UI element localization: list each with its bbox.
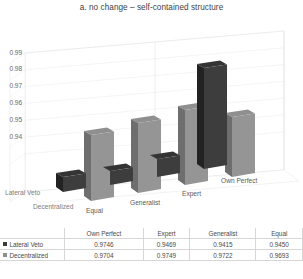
- depth-label-lateral-veto: Lateral Veto: [5, 189, 40, 196]
- legend-item-decentralized[interactable]: Decentralized: [0, 250, 65, 261]
- chart-title: a. no change – self-contained structure: [0, 3, 303, 12]
- y-tick-0: 0.99: [0, 49, 22, 56]
- bar-decentralized-own-perfect: [225, 110, 255, 178]
- cell-decentralized-generalist: 0.9722: [190, 250, 256, 261]
- category-label-equal: Equal: [86, 207, 103, 214]
- left-wall: [10, 53, 25, 202]
- y-tick-2: 0.97: [0, 82, 22, 89]
- table-row: Decentralized 0.9704 0.9749 0.9722 0.969…: [0, 250, 303, 261]
- bar-lateral-veto-own-perfect: [197, 61, 227, 170]
- cell-lateral-veto-equal: 0.9450: [256, 239, 303, 250]
- table-corner-cell: [0, 228, 65, 239]
- cell-decentralized-own-perfect: 0.9704: [65, 250, 144, 261]
- category-label-expert: Expert: [182, 190, 201, 197]
- cell-lateral-veto-expert: 0.9469: [143, 239, 190, 250]
- category-label-own-perfect: Own Perfect: [221, 177, 257, 184]
- legend-item-lateral-veto[interactable]: Lateral Veto: [0, 239, 65, 250]
- legend-label-decentralized: Decentralized: [10, 252, 48, 259]
- plot-area: [0, 18, 303, 226]
- legend-swatch-lateral-veto: [3, 242, 7, 246]
- depth-label-decentralized: Decentralized: [33, 203, 73, 210]
- y-tick-3: 0.96: [0, 99, 22, 106]
- cell-decentralized-equal: 0.9693: [256, 250, 303, 261]
- table-col-header-expert: Expert: [143, 228, 190, 239]
- table-col-header-generalist: Generalist: [190, 228, 256, 239]
- cell-decentralized-expert: 0.9749: [143, 250, 190, 261]
- y-tick-4: 0.95: [0, 116, 22, 123]
- cell-lateral-veto-own-perfect: 0.9746: [65, 239, 144, 250]
- cell-lateral-veto-generalist: 0.9415: [190, 239, 256, 250]
- bar-lateral-veto-equal: [56, 170, 86, 193]
- table-col-header-equal: Equal: [256, 228, 303, 239]
- table-row: Lateral Veto 0.9746 0.9469 0.9415 0.9450: [0, 239, 303, 250]
- legend-swatch-decentralized: [3, 253, 7, 257]
- y-tick-5: 0.94: [0, 133, 22, 140]
- legend-label-lateral-veto: Lateral Veto: [10, 241, 44, 248]
- data-table: Own Perfect Expert Generalist Equal Late…: [0, 228, 303, 261]
- chart-container: a. no change – self-contained structure: [0, 0, 303, 279]
- table-header-row: Own Perfect Expert Generalist Equal: [0, 228, 303, 239]
- bar-decentralized-equal: [84, 128, 114, 202]
- table-col-header-own-perfect: Own Perfect: [65, 228, 144, 239]
- category-label-generalist: Generalist: [130, 199, 160, 206]
- y-tick-1: 0.98: [0, 65, 22, 72]
